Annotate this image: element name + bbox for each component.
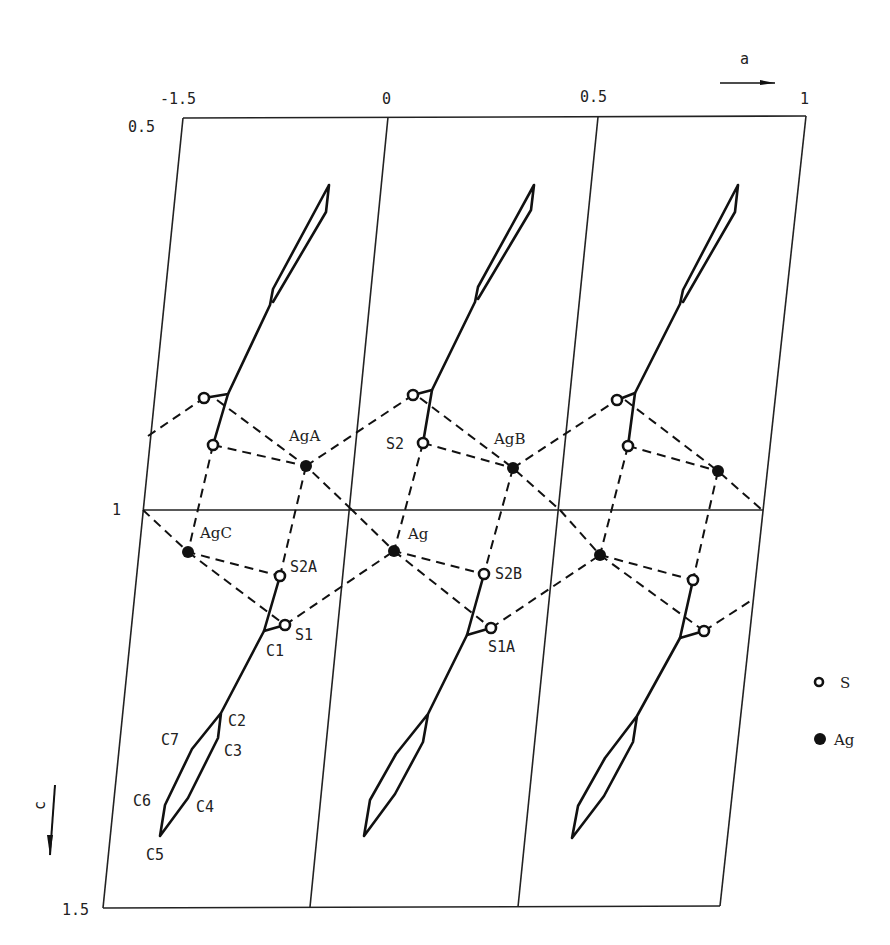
atom-labels: AgA AgB AgC Ag S2 S2A S2B S1 S1A C1 C2 C… [133,427,525,864]
label-C1: C1 [266,642,284,660]
molecule-lower-left [160,576,285,836]
label-Ag: Ag [407,525,429,543]
legend-s-label: S [840,674,850,692]
molecule-upper-right [617,185,738,446]
label-S2: S2 [386,435,404,453]
cell-grid [103,116,806,908]
label-C4: C4 [196,798,214,816]
tick-a-1: 1 [800,90,809,108]
label-AgA: AgA [288,427,320,445]
crystal-structure-diagram: a c -1.5 0 0.5 1 0.5 1 1.5 [0,0,890,945]
tick-a-0: 0 [382,90,391,108]
label-AgB: AgB [493,430,525,448]
label-S1: S1 [295,626,313,644]
molecule-lower-middle [364,574,491,836]
molecule-upper-left [204,185,329,445]
legend: S Ag [814,674,855,749]
label-C6: C6 [133,792,151,810]
tick-a-0.5: 0.5 [580,88,607,106]
label-S1A: S1A [488,638,515,656]
a-axis-label: a [740,50,749,68]
molecule-upper-middle [413,185,534,443]
molecule-lower-right [572,580,704,838]
label-C5: C5 [146,846,164,864]
label-S2B: S2B [495,565,522,583]
label-AgC: AgC [199,524,232,542]
label-C2: C2 [228,712,246,730]
label-S2A: S2A [290,558,317,576]
c-axis-indicator: c [31,785,55,856]
tick-a-neg1.5: -1.5 [160,90,196,108]
legend-s-symbol [815,678,823,686]
legend-ag-symbol [814,733,826,745]
tick-c-1.5: 1.5 [62,901,89,919]
label-C7: C7 [161,731,179,749]
tick-c-1: 1 [112,501,121,519]
tick-c-0.5: 0.5 [128,118,155,136]
label-C3: C3 [224,742,242,760]
legend-ag-label: Ag [833,731,855,749]
c-axis-label: c [31,801,49,810]
ag-s-contacts [143,395,762,631]
a-axis-indicator: a [720,50,775,85]
